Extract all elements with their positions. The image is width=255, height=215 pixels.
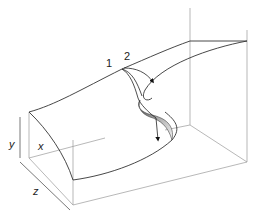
axes (20, 117, 70, 210)
trajectories (122, 68, 158, 140)
path-label-1: 1 (106, 58, 112, 69)
trajectory-1b (122, 69, 142, 96)
y-axis-label: y (9, 139, 15, 150)
fold-surface-diagram (0, 0, 255, 215)
z-axis-line (20, 162, 70, 210)
trajectory-1 (122, 69, 158, 140)
path-label-2: 2 (124, 51, 130, 62)
surface-upper-right-edge (143, 41, 247, 100)
fold-region (139, 100, 173, 140)
x-axis-label: x (38, 141, 44, 152)
wireframe-box (29, 8, 247, 205)
surface (29, 41, 247, 180)
surface-top-edge (29, 41, 247, 112)
surface-left-edge (29, 112, 73, 180)
z-axis-label: z (33, 186, 39, 197)
